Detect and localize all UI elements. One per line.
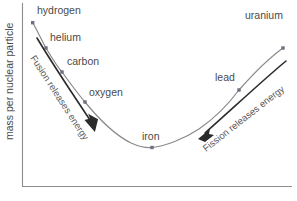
data-point-oxygen[interactable] xyxy=(83,100,86,103)
chart-canvas: mass per nuclear particle hydrogen heliu… xyxy=(0,0,297,201)
label-helium: helium xyxy=(50,31,81,43)
nuclear-binding-energy-chart: mass per nuclear particle hydrogen heliu… xyxy=(0,0,297,201)
label-uranium: uranium xyxy=(245,9,283,21)
label-carbon: carbon xyxy=(67,55,99,67)
data-point-uranium[interactable] xyxy=(281,46,284,49)
label-lead: lead xyxy=(215,71,235,83)
label-oxygen: oxygen xyxy=(89,86,123,98)
label-hydrogen: hydrogen xyxy=(37,4,81,16)
data-point-iron[interactable] xyxy=(150,146,153,149)
label-iron: iron xyxy=(142,130,160,142)
data-point-lead[interactable] xyxy=(237,88,240,91)
data-point-helium[interactable] xyxy=(44,46,47,49)
data-point-hydrogen[interactable] xyxy=(31,21,34,24)
data-point-carbon[interactable] xyxy=(60,70,63,73)
y-axis-label: mass per nuclear particle xyxy=(3,23,15,140)
